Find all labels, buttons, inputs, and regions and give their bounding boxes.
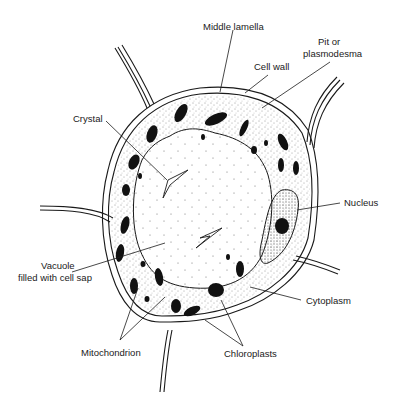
- label-crystal: Crystal: [73, 113, 103, 124]
- label-middle-lamella: Middle lamella: [203, 21, 264, 32]
- label-pit-line2: plasmodesma: [303, 48, 363, 59]
- label-nucleus: Nucleus: [344, 197, 379, 208]
- plant-cell-diagram: Middle lamella Pit or plasmodesma Cell w…: [0, 0, 399, 394]
- label-vacuole-line1: Vacuole: [41, 260, 75, 271]
- label-chloroplasts: Chloroplasts: [224, 348, 277, 359]
- label-cell-wall: Cell wall: [254, 61, 289, 72]
- label-cytoplasm: Cytoplasm: [306, 295, 351, 306]
- label-pit-line1: Pit or: [318, 36, 340, 47]
- label-vacuole-line2: filled with cell sap: [18, 272, 92, 283]
- label-mitochondrion: Mitochondrion: [81, 347, 141, 358]
